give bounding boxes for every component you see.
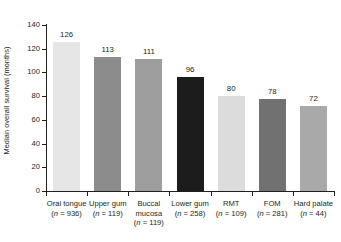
category-sample-size: (n = 281) [249,209,296,219]
x-axis-tick [293,192,294,196]
bar-value-label: 96 [170,66,210,74]
y-axis-tick-label: 140 [12,21,40,29]
y-axis-line [46,24,47,192]
y-axis-tick-label: 20 [12,163,40,171]
x-axis-tick [128,192,129,196]
y-axis-tick-label: 0 [12,187,40,195]
category-name: Lower gum [166,199,213,209]
bar [177,77,204,191]
y-axis-tick-label-text: 0 [16,187,40,195]
bar-value-label: 80 [211,85,251,93]
y-axis-tick-label-text: 100 [16,68,40,76]
y-axis-tick [42,25,46,26]
category-name: RMT [208,199,255,209]
category-name: FOM [249,199,296,209]
bar-value-label: 72 [293,95,333,103]
category-name: Upper gum [84,199,131,209]
y-axis-tick-label: 40 [12,140,40,148]
bar [53,42,80,191]
y-axis-tick [42,72,46,73]
x-axis-tick [334,192,335,196]
y-axis-tick-label: 120 [12,45,40,53]
category-sample-size: (n = 258) [166,209,213,219]
category-sample-size: (n = 936) [43,209,90,219]
x-axis-category-label: RMT(n = 109) [208,199,255,218]
y-axis-tick-label-text: 140 [16,21,40,29]
y-axis-tick-label-text: 20 [16,163,40,171]
x-axis-line [46,191,335,192]
x-axis-category-label: Oral tongue(n = 936) [43,199,90,218]
y-axis-tick-label-text: 40 [16,140,40,148]
y-axis-tick-label: 60 [12,116,40,124]
x-axis-tick [46,192,47,196]
y-axis-tick [42,96,46,97]
category-sample-size: (n = 119) [84,209,131,219]
category-name-line2: mucosa [125,209,172,219]
y-axis-tick [42,167,46,168]
bar-value-label: 126 [47,31,87,39]
y-axis-title-text: Median overall survival (months) [3,46,12,154]
bar [218,96,245,191]
y-axis-tick [42,49,46,50]
y-axis-tick-label-text: 120 [16,45,40,53]
x-axis-category-label: Hard palate(n = 44) [290,199,337,218]
category-sample-size: (n = 119) [125,218,172,228]
bar [300,106,327,191]
x-axis-tick [87,192,88,196]
x-axis-tick [211,192,212,196]
category-name: Buccal [125,199,172,209]
x-axis-category-label: FOM(n = 281) [249,199,296,218]
y-axis-tick [42,144,46,145]
y-axis-tick-label-text: 60 [16,116,40,124]
y-axis-tick-label-text: 80 [16,92,40,100]
x-axis-category-label: Buccalmucosa(n = 119) [125,199,172,228]
y-axis-tick [42,120,46,121]
x-axis-tick [169,192,170,196]
bar-value-label: 111 [129,48,169,56]
bar [259,99,286,191]
bar-chart: Median overall survival (months) 1401201… [0,0,341,242]
category-sample-size: (n = 109) [208,209,255,219]
bar [94,57,121,191]
bar-value-label: 113 [88,46,128,54]
y-axis-tick-label: 100 [12,68,40,76]
x-axis-category-label: Upper gum(n = 119) [84,199,131,218]
x-axis-tick [252,192,253,196]
category-sample-size: (n = 44) [290,209,337,219]
category-name: Hard palate [290,199,337,209]
category-name: Oral tongue [43,199,90,209]
x-axis-category-label: Lower gum(n = 258) [166,199,213,218]
bar-value-label: 78 [252,88,292,96]
bar [135,59,162,191]
y-axis-tick-label: 80 [12,92,40,100]
